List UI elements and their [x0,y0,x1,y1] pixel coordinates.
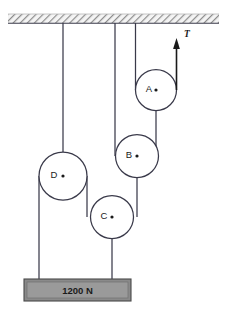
pulley-D: D [39,152,87,200]
pulley-axle-dot-A [154,88,157,91]
pulley-C: C [91,196,134,239]
pulley-axle-dot-B [135,154,138,157]
pulley-label-D: D [51,169,58,180]
pulley-group: ABCD [39,70,177,239]
tension-arrow-head [173,38,180,49]
tension-arrow-T: T [173,29,191,90]
pulley-diagram-container: ABCD T 1200 N [0,0,227,318]
pulley-system-figure: ABCD T 1200 N [0,0,227,318]
pulley-A: A [136,70,177,111]
tension-label: T [184,29,191,39]
pulley-label-B: B [126,149,132,160]
weight-block: 1200 N [24,279,131,301]
pulley-label-A: A [146,83,153,94]
pulley-axle-dot-D [61,174,64,177]
ceiling-hatch-fill [8,14,219,23]
ceiling-support [8,14,219,23]
weight-label: 1200 N [62,285,93,296]
pulley-label-C: C [101,210,108,221]
pulley-axle-dot-C [110,215,113,218]
pulley-B: B [116,135,159,178]
